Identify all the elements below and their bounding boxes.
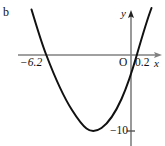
origin-label: O [119, 57, 127, 69]
x-intercept-left-label: −6.2 [20, 57, 42, 69]
parabola-curve [32, 8, 152, 131]
x-intercept-right-label: 0.2 [135, 57, 149, 69]
parabola-plot [0, 0, 165, 146]
y-tick-label-minus-ten: −10 [110, 125, 128, 137]
y-axis-label: y [121, 8, 126, 19]
x-axis-label: x [154, 58, 159, 69]
parabola-figure-panel: b y −6.2 O 0.2 x −10 [0, 0, 165, 146]
